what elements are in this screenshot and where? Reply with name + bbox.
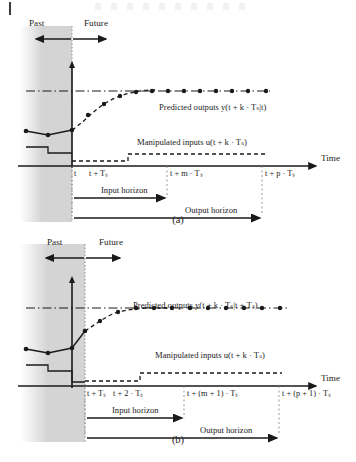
page-top-artifact	[95, 3, 245, 10]
predicted-output-marker	[260, 306, 264, 310]
figure-page: Past Future Predicted outputs y(t + k · …	[0, 0, 356, 462]
tick-label-2: t + (m + 1) · Tₛ	[187, 390, 238, 398]
tick-label-3: t + p · Tₛ	[265, 170, 295, 178]
panel-a: Past Future Predicted outputs y(t + k · …	[0, 18, 356, 230]
past-label: Past	[29, 19, 44, 28]
predicted-output-marker	[214, 89, 218, 93]
predicted-output-marker	[166, 89, 170, 93]
predicted-output-marker	[198, 89, 202, 93]
predicted-output-marker	[98, 319, 102, 323]
past-output-marker	[24, 129, 29, 134]
panel-a-graphics	[0, 18, 356, 230]
tick-label-1: t + Tₛ	[89, 170, 108, 178]
tick-label-0: t + Tₛ	[87, 390, 106, 398]
predicted-output-marker	[278, 306, 282, 310]
predicted-output-curve	[85, 308, 172, 331]
predicted-output-marker	[102, 102, 106, 106]
predicted-output-marker	[134, 90, 138, 94]
past-output-marker	[46, 133, 51, 138]
manipulated-inputs-label: Manipulated inputs u(t + k · Tₛ)	[155, 351, 265, 360]
future-label: Future	[99, 238, 123, 247]
panel-a-caption: (a)	[0, 214, 356, 225]
past-output-marker	[46, 351, 51, 356]
time-axis-label: Time	[321, 374, 340, 383]
past-label: Past	[47, 238, 62, 247]
predicted-output-marker	[118, 94, 122, 98]
input-horizon-label: Input horizon	[101, 186, 148, 195]
past-output-marker	[24, 347, 29, 352]
tick-label-2: t + m · Tₛ	[170, 170, 203, 178]
future-label: Future	[84, 19, 108, 28]
tick-label-3: t + (p + 1) · Tₛ	[282, 390, 331, 398]
tick-label-0: t	[74, 170, 76, 178]
manipulated-input-step	[85, 373, 282, 381]
predicted-output-marker	[116, 310, 120, 314]
predicted-output-marker	[182, 89, 186, 93]
input-horizon-label: Input horizon	[112, 406, 159, 415]
panel-b-caption: (b)	[0, 434, 356, 445]
predicted-output-marker	[86, 113, 90, 117]
predicted-outputs-label: Predicted outputs y(t + k · Tₛ|t)	[159, 103, 266, 112]
predicted-output-marker	[246, 89, 250, 93]
predicted-output-marker	[230, 89, 234, 93]
panel-b: Past Future Predicted outputs y(t + k · …	[0, 236, 356, 462]
past-output-marker	[70, 346, 75, 351]
predicted-output-marker	[264, 89, 268, 93]
page-margin-mark	[9, 2, 11, 15]
manipulated-input-step	[72, 154, 266, 161]
predicted-outputs-label: Predicted outputs y(t + k · Tₛ|t + Tₛ)	[133, 301, 258, 310]
tick-label-1: t + 2 · Tₛ	[113, 390, 143, 398]
time-axis-label: Time	[321, 154, 340, 163]
predicted-output-marker	[150, 89, 154, 93]
past-region-band	[20, 26, 72, 222]
panel-b-graphics	[0, 236, 356, 462]
manipulated-inputs-label: Manipulated inputs u(t + k · Tₛ)	[137, 138, 247, 147]
predicted-output-curve	[72, 90, 158, 130]
